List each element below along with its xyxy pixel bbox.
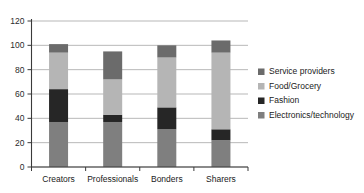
bar-segment <box>211 53 230 130</box>
chart-plot-area: 020406080100120 CreatorsProfessionalsBon… <box>0 0 364 193</box>
bar-segment <box>157 107 176 129</box>
y-axis-tick-label: 60 <box>15 89 25 99</box>
bar-segment <box>211 140 230 167</box>
bar-segment <box>103 51 122 79</box>
y-axis-tick-label: 80 <box>15 65 25 75</box>
y-axis-tick-label: 120 <box>10 16 24 26</box>
bar-segment <box>211 40 230 52</box>
x-axis-ticks-group <box>32 167 249 171</box>
bar-segment <box>49 53 68 89</box>
bar-segment <box>157 129 176 167</box>
legend-label: Electronics/technology <box>269 110 355 120</box>
legend-label: Fashion <box>269 95 300 105</box>
x-axis-category-label: Creators <box>42 174 75 184</box>
bar-segment <box>49 44 68 53</box>
bar-segment <box>103 122 122 167</box>
bar-segment <box>157 58 176 108</box>
legend-swatch <box>258 112 265 119</box>
y-axis-tick-label: 0 <box>20 162 25 172</box>
bar-segment <box>103 115 122 122</box>
x-axis-category-label: Sharers <box>206 174 236 184</box>
y-axis-labels-group: 020406080100120 <box>10 16 24 172</box>
chart-canvas: 020406080100120 CreatorsProfessionalsBon… <box>0 0 364 193</box>
x-axis-category-label: Bonders <box>151 174 183 184</box>
bar-segment <box>157 45 176 57</box>
bar-segment <box>103 79 122 114</box>
y-axis-ticks-group <box>28 21 32 167</box>
chart-legend: Service providersFood/GroceryFashionElec… <box>258 66 355 120</box>
bars-group <box>49 40 230 167</box>
legend-swatch <box>258 83 265 90</box>
y-axis-tick-label: 100 <box>10 40 24 50</box>
bar-segment <box>49 89 68 122</box>
legend-label: Food/Grocery <box>269 81 322 91</box>
bar-segment <box>211 129 230 140</box>
x-axis-category-label: Professionals <box>87 174 138 184</box>
bar-segment <box>49 122 68 167</box>
stacked-bar-chart: 020406080100120 CreatorsProfessionalsBon… <box>0 0 364 193</box>
legend-swatch <box>258 98 265 105</box>
legend-swatch <box>258 69 265 76</box>
y-axis-tick-label: 40 <box>15 113 25 123</box>
y-axis-tick-label: 20 <box>15 138 25 148</box>
x-axis-labels-group: CreatorsProfessionalsBondersSharers <box>42 174 236 184</box>
legend-label: Service providers <box>269 66 335 76</box>
